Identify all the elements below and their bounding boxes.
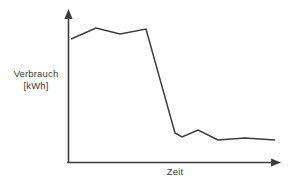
y-axis-arrow-icon xyxy=(64,9,72,19)
y-axis-label: Verbrauch [kWh] xyxy=(8,68,64,92)
data-series-line xyxy=(71,28,275,140)
x-axis-arrow-icon xyxy=(271,158,281,166)
chart-screenshot: Verbrauch [kWh] Zeit xyxy=(0,0,292,189)
x-axis-label: Zeit xyxy=(152,166,198,178)
y-axis-label-line1: Verbrauch xyxy=(8,68,64,80)
consumption-line-chart xyxy=(0,0,292,189)
y-axis-label-line2: [kWh] xyxy=(8,80,64,92)
